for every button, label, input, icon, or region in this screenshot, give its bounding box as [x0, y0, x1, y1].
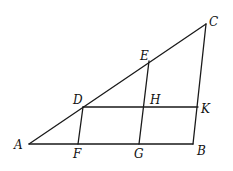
segment-cb: [193, 24, 206, 144]
point-label-h: H: [149, 93, 161, 107]
point-label-a: A: [13, 138, 23, 152]
point-label-d: D: [72, 93, 83, 107]
triangle-figure: ABCDEFGHK: [0, 0, 233, 171]
point-label-f: F: [72, 147, 82, 161]
point-label-b: B: [196, 144, 206, 158]
line-segments: [29, 24, 206, 144]
segment-df: [78, 107, 83, 144]
point-label-c: C: [209, 15, 218, 29]
geometry-diagram: ABCDEFGHK: [0, 0, 233, 171]
point-label-g: G: [134, 147, 144, 161]
segment-ac: [29, 24, 206, 144]
point-label-e: E: [139, 49, 149, 63]
point-label-k: K: [200, 102, 211, 116]
segment-eg: [139, 61, 149, 144]
